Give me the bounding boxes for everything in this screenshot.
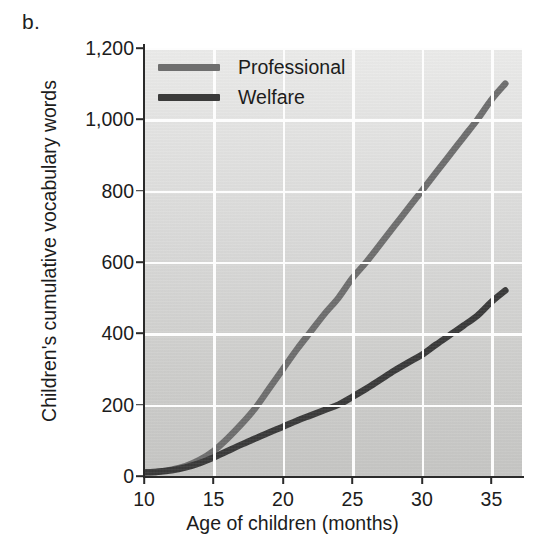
gridline-vertical (491, 48, 493, 476)
gridline-horizontal (144, 333, 522, 335)
gridline-horizontal (144, 405, 522, 407)
y-tick-label: 1,000 (46, 108, 134, 131)
x-tick-label: 10 (133, 488, 155, 511)
x-axis-title-text: Age of children (months) (136, 512, 398, 534)
x-tick-mark (421, 476, 423, 484)
gridline-vertical (422, 48, 424, 476)
y-tick-label: 400 (46, 322, 134, 345)
x-axis-spine (144, 476, 524, 478)
gridline-vertical (352, 48, 354, 476)
figure-panel-b: b. Children's cumulative vocabulary word… (0, 0, 535, 548)
x-tick-mark (282, 476, 284, 484)
x-tick-mark (213, 476, 215, 484)
x-axis-title: Age of children (months) (0, 512, 535, 535)
x-tick-mark (143, 476, 145, 484)
x-tick-label: 15 (203, 488, 225, 511)
legend-swatch-welfare (158, 94, 220, 101)
panel-label: b. (22, 10, 40, 34)
legend-item-welfare: Welfare (158, 82, 408, 112)
gridline-horizontal (144, 119, 522, 121)
y-tick-label: 600 (46, 251, 134, 274)
gridline-vertical (213, 48, 215, 476)
y-tick-mark (136, 333, 144, 335)
y-tick-mark (136, 47, 144, 49)
x-tick-label: 20 (272, 488, 294, 511)
gridline-vertical (283, 48, 285, 476)
x-tick-label: 35 (481, 488, 503, 511)
x-tick-label: 30 (411, 488, 433, 511)
y-tick-mark (136, 119, 144, 121)
y-tick-mark (136, 404, 144, 406)
y-tick-label-column: 02004006008001,0001,200 (46, 0, 134, 548)
gridline-horizontal (144, 191, 522, 193)
legend-swatch-professional (158, 64, 220, 71)
x-tick-label: 25 (342, 488, 364, 511)
x-tick-mark (491, 476, 493, 484)
gridline-horizontal (144, 262, 522, 264)
y-tick-label: 0 (46, 465, 134, 488)
y-tick-label: 200 (46, 393, 134, 416)
legend-item-professional: Professional (158, 52, 408, 82)
legend-label: Welfare (238, 86, 305, 109)
gridline-horizontal (144, 48, 522, 50)
legend: ProfessionalWelfare (158, 52, 408, 112)
legend-label: Professional (238, 56, 345, 79)
series-line-professional (144, 84, 505, 473)
y-tick-mark (136, 261, 144, 263)
y-tick-label: 800 (46, 179, 134, 202)
plot-area (144, 48, 522, 476)
x-tick-mark (352, 476, 354, 484)
y-tick-label: 1,200 (46, 37, 134, 60)
y-tick-mark (136, 190, 144, 192)
